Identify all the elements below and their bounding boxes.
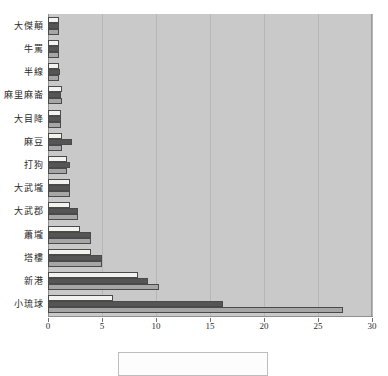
bar-group: 大目降 <box>48 107 372 130</box>
gridline <box>372 14 373 316</box>
category-label: 蕭壠 <box>24 230 44 239</box>
category-label: 大目降 <box>14 114 44 123</box>
category-label: 塔樓 <box>24 253 44 262</box>
category-label: 半線 <box>24 68 44 77</box>
category-label: 大武郡 <box>14 207 44 216</box>
category-label: 麻豆 <box>24 137 44 146</box>
legend <box>118 352 268 376</box>
bar-group: 大武壠 <box>48 177 372 200</box>
category-label: 麻里麻崙 <box>4 91 44 100</box>
bar <box>48 75 59 81</box>
bar <box>48 261 102 267</box>
bar-group: 牛罵 <box>48 37 372 60</box>
category-label: 小琉球 <box>14 300 44 309</box>
x-tick-label: 0 <box>46 322 51 332</box>
bar <box>48 191 70 197</box>
bar-group: 塔樓 <box>48 246 372 269</box>
bar-group: 打狗 <box>48 153 372 176</box>
category-label: 打狗 <box>24 160 44 169</box>
bar <box>48 284 159 290</box>
bar-group: 大武郡 <box>48 200 372 223</box>
category-label: 牛罵 <box>24 44 44 53</box>
bar-group: 新港 <box>48 270 372 293</box>
bar <box>48 168 67 174</box>
bar <box>48 29 59 35</box>
bar <box>48 214 78 220</box>
bar <box>48 307 343 313</box>
bar-group: 半線 <box>48 60 372 83</box>
x-tick-label: 25 <box>314 322 323 332</box>
x-tick-label: 5 <box>100 322 105 332</box>
bar-group: 小琉球 <box>48 293 372 316</box>
bar <box>48 145 62 151</box>
bar <box>48 122 61 128</box>
bar-group: 麻里麻崙 <box>48 84 372 107</box>
bar <box>48 98 62 104</box>
x-tick-label: 30 <box>368 322 377 332</box>
bar-group: 麻豆 <box>48 130 372 153</box>
bar <box>48 52 59 58</box>
x-tick-label: 10 <box>152 322 161 332</box>
bar-group: 蕭壠 <box>48 223 372 246</box>
x-axis-line <box>48 316 373 317</box>
bar-group: 大傑顛 <box>48 14 372 37</box>
category-label: 大傑顛 <box>14 21 44 30</box>
category-label: 大武壠 <box>14 184 44 193</box>
bar <box>48 238 91 244</box>
x-tick-label: 20 <box>260 322 269 332</box>
category-label: 新港 <box>24 277 44 286</box>
x-tick-label: 15 <box>206 322 215 332</box>
